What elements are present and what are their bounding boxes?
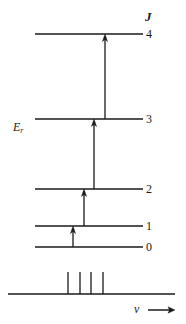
energy-level-diagram: J Er ν 43210 [0,0,186,324]
diagram-canvas [0,0,186,324]
spectrum-plot [8,272,175,313]
energy-level-label-J1: 1 [146,220,152,232]
transition-arrows [70,34,107,247]
energy-axis-label: Er [13,121,23,133]
energy-level-lines [35,34,143,247]
energy-level-label-J0: 0 [146,241,152,253]
quantum-number-axis-label: J [145,10,152,23]
frequency-axis-label: ν [134,303,139,315]
energy-level-label-J4: 4 [146,28,152,40]
energy-level-label-J2: 2 [146,183,152,195]
energy-level-label-J3: 3 [146,113,152,125]
